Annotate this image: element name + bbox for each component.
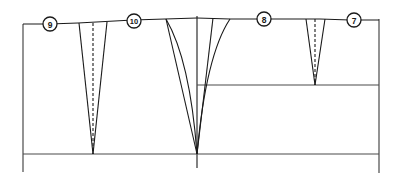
side-seam-back-straight xyxy=(166,19,197,154)
back-dart-right-leg xyxy=(93,22,107,154)
back-dart-left-leg xyxy=(79,23,93,154)
label-7: 7 xyxy=(347,13,361,27)
label-7-text: 7 xyxy=(352,16,357,26)
skirt-pattern-diagram: 9 10 8 7 xyxy=(0,0,397,180)
label-10-text: 10 xyxy=(130,17,138,26)
label-9: 9 xyxy=(43,17,57,31)
side-seam-front-curve xyxy=(197,19,230,154)
front-dart-right-leg xyxy=(315,19,325,85)
label-9-text: 9 xyxy=(48,20,53,30)
label-8: 8 xyxy=(257,12,271,26)
label-10: 10 xyxy=(127,14,141,28)
label-8-text: 8 xyxy=(262,15,267,25)
front-dart-left-leg xyxy=(306,19,315,85)
